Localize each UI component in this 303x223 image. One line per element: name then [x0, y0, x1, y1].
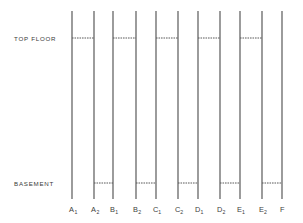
svg-text:A: A	[69, 205, 74, 214]
svg-text:1: 1	[201, 209, 204, 215]
svg-text:2: 2	[264, 209, 267, 215]
svg-text:1: 1	[75, 209, 78, 215]
column-label-d1: D 1	[195, 205, 204, 215]
svg-text:F: F	[280, 205, 285, 214]
column-label-d2: D 2	[217, 205, 226, 215]
svg-text:2: 2	[97, 209, 100, 215]
diagram-canvas: TOP FLOOR BASEMENT	[0, 0, 303, 223]
svg-text:B: B	[133, 205, 138, 214]
svg-text:A: A	[91, 205, 96, 214]
svg-text:1: 1	[158, 209, 161, 215]
top-floor-label: TOP FLOOR	[14, 35, 56, 42]
riser-lines-group	[72, 11, 282, 199]
column-label-b2: B 2	[133, 205, 141, 215]
svg-text:1: 1	[115, 209, 118, 215]
column-label-a1: A 1	[69, 205, 78, 215]
column-label-e2: E 2	[259, 205, 267, 215]
column-label-c2: C 2	[175, 205, 183, 215]
column-label-a2: A 2	[91, 205, 100, 215]
column-label-c1: C 1	[153, 205, 161, 215]
column-label-e1: E 1	[237, 205, 245, 215]
svg-text:2: 2	[223, 209, 226, 215]
building-riser-diagram: TOP FLOOR BASEMENT	[0, 0, 303, 223]
column-label-b1: B 1	[110, 205, 118, 215]
svg-text:2: 2	[180, 209, 183, 215]
basement-label: BASEMENT	[14, 180, 54, 187]
svg-text:B: B	[110, 205, 115, 214]
column-labels-group: A 1 A 2 B 1 B 2 C 1 C 2	[69, 205, 285, 215]
svg-text:1: 1	[242, 209, 245, 215]
svg-text:2: 2	[138, 209, 141, 215]
column-label-f: F	[280, 205, 285, 214]
